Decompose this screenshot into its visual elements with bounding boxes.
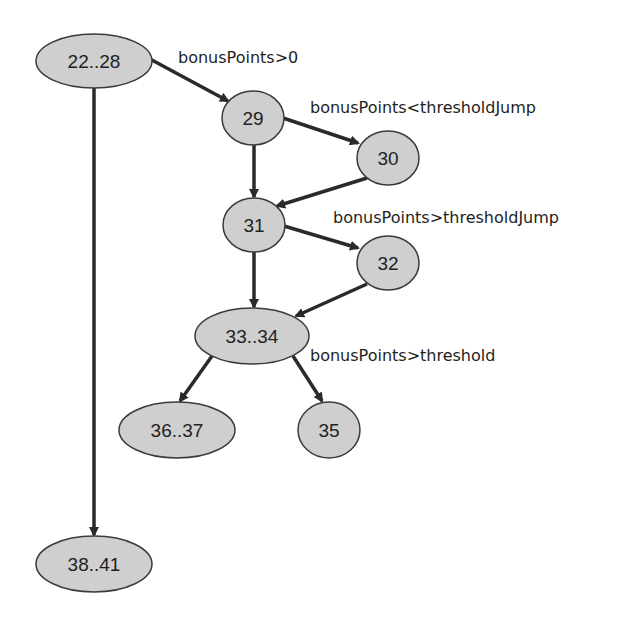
node-label: 36..37 <box>151 420 204 441</box>
node-label: 22..28 <box>68 51 121 72</box>
edge-arrow <box>296 284 367 316</box>
control-flow-diagram: bonusPoints>0bonusPoints<thresholdJumpbo… <box>0 0 640 625</box>
edge-n31-to-n32 <box>284 226 358 248</box>
node-n29: 29 <box>222 91 284 145</box>
edge-arrow <box>283 118 358 143</box>
node-label: 38..41 <box>68 554 121 575</box>
edge-n32-to-n33_34 <box>296 284 367 316</box>
edge-condition-label: bonusPoints<thresholdJump <box>310 98 536 117</box>
edge-arrow <box>277 178 367 206</box>
edge-arrow <box>180 356 212 401</box>
node-label: 29 <box>242 108 263 129</box>
node-n33_34: 33..34 <box>195 308 309 364</box>
graph-canvas: bonusPoints>0bonusPoints<thresholdJumpbo… <box>0 0 640 625</box>
edge-condition-label: bonusPoints>threshold <box>310 346 495 365</box>
node-label: 33..34 <box>226 326 279 347</box>
node-label: 31 <box>243 215 264 236</box>
node-label: 32 <box>377 253 398 274</box>
node-n35: 35 <box>298 402 360 458</box>
edge-n33_34-to-n36_37 <box>180 356 212 401</box>
node-n22_28: 22..28 <box>36 34 152 88</box>
node-n32: 32 <box>357 236 419 290</box>
node-label: 35 <box>318 420 339 441</box>
node-n30: 30 <box>357 131 419 185</box>
edge-n29-to-n30 <box>283 118 358 143</box>
node-label: 30 <box>377 148 398 169</box>
node-n36_37: 36..37 <box>119 402 235 458</box>
edge-arrow <box>284 226 358 248</box>
edge-condition-label: bonusPoints>0 <box>178 48 298 67</box>
edge-condition-label: bonusPoints>thresholdJump <box>333 208 559 227</box>
node-n31: 31 <box>223 198 285 252</box>
edge-n30-to-n31 <box>277 178 367 206</box>
node-n38_41: 38..41 <box>36 536 152 592</box>
